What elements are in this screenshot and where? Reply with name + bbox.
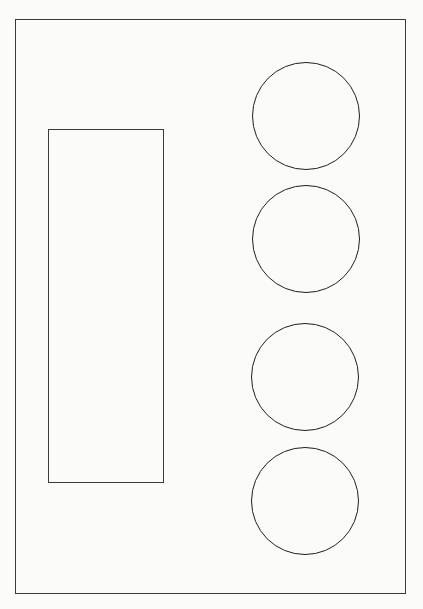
circle-3 bbox=[251, 323, 359, 431]
tall-rectangle bbox=[48, 129, 164, 483]
circle-1 bbox=[252, 62, 360, 170]
circle-4 bbox=[251, 447, 359, 555]
circle-2 bbox=[252, 185, 360, 293]
